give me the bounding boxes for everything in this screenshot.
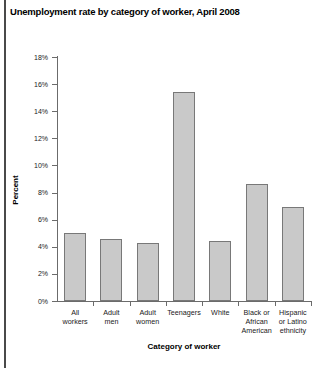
bar [64,233,86,301]
x-axis-line [57,301,311,302]
y-tick-label: 10% [0,162,48,169]
bar [246,184,268,301]
y-tick-label: 16% [0,81,48,88]
bar [100,239,122,301]
bar [209,241,231,301]
chart-title: Unemployment rate by category of worker,… [10,6,310,18]
x-category-label: Allworkers [55,308,95,326]
x-tick-mark [130,301,131,306]
y-tick-label: 0% [0,298,48,305]
bar [173,92,195,301]
x-category-label: Black orAfricanAmerican [236,308,276,335]
x-tick-mark [238,301,239,306]
y-tick-label: 12% [0,135,48,142]
x-category-label: Adultwomen [128,308,168,326]
x-tick-mark [166,301,167,306]
x-tick-mark [93,301,94,306]
y-tick-mark [52,84,57,85]
y-tick-label: 8% [0,189,48,196]
y-tick-mark [52,57,57,58]
y-axis-line [57,56,58,302]
x-category-label: Hispanicor Latinoethnicity [273,308,313,335]
x-axis-title: Category of worker [57,342,311,351]
y-tick-label: 2% [0,270,48,277]
x-category-label: White [200,308,240,317]
y-tick-mark [52,111,57,112]
y-tick-mark [52,301,57,302]
x-category-label: Adultmen [91,308,131,326]
y-tick-mark [52,193,57,194]
x-tick-mark [275,301,276,306]
bar [282,207,304,301]
bar [137,243,159,301]
x-category-label: Teenagers [164,308,204,317]
chart-figure: Unemployment rate by category of worker,… [0,0,318,368]
x-tick-mark [311,301,312,306]
y-tick-label: 14% [0,108,48,115]
y-tick-label: 4% [0,243,48,250]
y-tick-mark [52,274,57,275]
y-tick-label: 18% [0,54,48,61]
x-tick-mark [202,301,203,306]
chart-footnote [18,362,310,368]
y-tick-mark [52,220,57,221]
y-tick-mark [52,247,57,248]
y-tick-mark [52,138,57,139]
y-tick-label: 6% [0,216,48,223]
y-tick-mark [52,165,57,166]
